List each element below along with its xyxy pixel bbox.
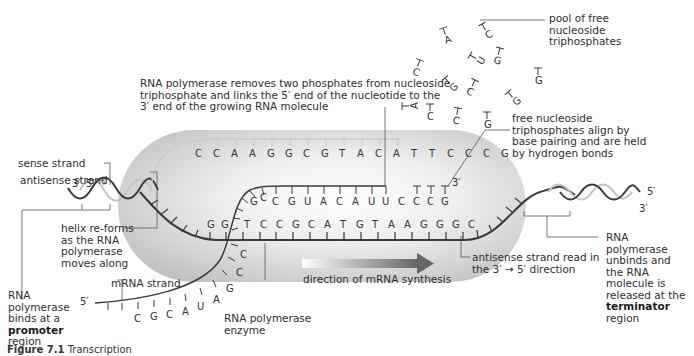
- svg-text:C: C: [452, 114, 461, 126]
- svg-text:A: A: [231, 148, 238, 159]
- free-align-label: free nucleoside triphosphates align by b…: [512, 113, 646, 159]
- svg-text:G: G: [441, 196, 449, 207]
- svg-text:T: T: [338, 148, 346, 159]
- terminator-label: RNA polymerase unbinds and the RNA molec…: [606, 232, 685, 324]
- sense-strand-label: sense strand: [18, 158, 86, 170]
- pool-label: pool of free nucleoside triphosphates: [549, 13, 621, 48]
- right-5prime-label: 5′: [647, 186, 656, 197]
- svg-text:T: T: [410, 148, 418, 159]
- free-nucleotide: G: [505, 89, 523, 108]
- helix-reforms-label: helix re-forms as the RNA polymerase mov…: [61, 223, 134, 269]
- svg-text:A: A: [404, 219, 411, 230]
- svg-text:G: G: [226, 283, 234, 294]
- svg-text:C: C: [465, 148, 472, 159]
- svg-text:G: G: [436, 219, 444, 230]
- svg-text:G: G: [207, 219, 215, 230]
- svg-text:C: C: [195, 148, 202, 159]
- rna-3prime-label: 3′: [452, 177, 461, 188]
- svg-text:C: C: [236, 267, 243, 278]
- svg-text:G: G: [535, 75, 543, 86]
- figure-caption: Figure 7.1 Transcription: [7, 344, 132, 355]
- mrna-5prime-label: 5′: [80, 296, 89, 307]
- svg-text:G: G: [150, 311, 158, 322]
- free-nucleotide: C: [464, 78, 479, 98]
- svg-text:U: U: [197, 301, 204, 312]
- svg-text:U: U: [382, 196, 389, 207]
- svg-text:C: C: [240, 249, 247, 260]
- rna-aligning-sequence: C C G: [413, 196, 449, 207]
- svg-text:A: A: [182, 306, 189, 317]
- svg-text:G: G: [250, 196, 258, 207]
- svg-text:C: C: [308, 219, 315, 230]
- svg-text:A: A: [213, 294, 220, 305]
- antisense-read-label: antisense strand read in the 3′ → 5′ dir…: [472, 252, 600, 275]
- svg-text:U: U: [475, 55, 488, 67]
- svg-text:G: G: [420, 219, 428, 230]
- svg-text:C: C: [260, 192, 267, 203]
- svg-text:C: C: [375, 148, 382, 159]
- svg-text:G: G: [356, 219, 364, 230]
- svg-text:G: G: [492, 54, 502, 67]
- svg-text:A: A: [443, 33, 453, 46]
- free-nucleotide: C: [410, 59, 424, 79]
- svg-text:G: G: [292, 219, 300, 230]
- free-nucleotide: C: [479, 22, 495, 42]
- svg-text:G: G: [221, 219, 229, 230]
- svg-text:G: G: [501, 148, 509, 159]
- svg-text:C: C: [272, 196, 279, 207]
- svg-text:C: C: [276, 219, 283, 230]
- svg-text:C: C: [427, 111, 434, 122]
- svg-text:C: C: [468, 219, 475, 230]
- svg-text:C: C: [166, 309, 173, 320]
- svg-text:T: T: [428, 148, 436, 159]
- antisense-strand-label: antisense strand: [20, 175, 108, 187]
- svg-text:T: T: [339, 219, 347, 230]
- svg-text:C: C: [260, 219, 267, 230]
- free-nucleotide: G: [534, 68, 543, 86]
- svg-text:G: G: [285, 148, 293, 159]
- svg-text:C: C: [303, 148, 310, 159]
- svg-text:G: G: [452, 219, 460, 230]
- svg-text:C: C: [134, 313, 141, 324]
- free-nucleotide: G: [491, 47, 504, 67]
- svg-text:A: A: [352, 196, 359, 207]
- svg-text:A: A: [249, 148, 256, 159]
- svg-text:C: C: [427, 196, 434, 207]
- svg-text:T: T: [371, 219, 379, 230]
- svg-text:A: A: [393, 148, 400, 159]
- svg-text:C: C: [465, 85, 476, 98]
- svg-text:U: U: [368, 196, 375, 207]
- transcription-diagram: C C A A G G C G T A C A T T C C C G: [0, 0, 694, 356]
- svg-text:A: A: [388, 219, 395, 230]
- svg-text:A: A: [357, 148, 364, 159]
- svg-text:C: C: [398, 196, 405, 207]
- free-nucleotide: C: [451, 107, 462, 126]
- svg-text:A: A: [324, 219, 331, 230]
- svg-text:T: T: [243, 219, 251, 230]
- svg-text:C: C: [336, 196, 343, 207]
- svg-text:G: G: [267, 148, 275, 159]
- right-3prime-label: 3′: [639, 203, 648, 214]
- svg-text:C: C: [483, 148, 490, 159]
- direction-label: direction of mRNA synthesis: [303, 274, 451, 286]
- svg-text:G: G: [321, 148, 329, 159]
- svg-text:U: U: [304, 196, 311, 207]
- svg-text:C: C: [213, 148, 220, 159]
- mrna-strand-label: mRNA strand: [111, 278, 181, 290]
- svg-text:A: A: [320, 196, 327, 207]
- svg-text:G: G: [288, 196, 296, 207]
- svg-text:C: C: [483, 28, 495, 41]
- svg-text:C: C: [413, 196, 420, 207]
- free-nucleotide: U: [468, 51, 488, 67]
- free-nucleotide: A: [439, 27, 453, 47]
- free-nucleotide: G: [483, 112, 492, 130]
- rna-polymerase-enzyme-label: RNA polymerase enzyme: [224, 313, 311, 336]
- polymerase-removes-label: RNA polymerase removes two phosphates fr…: [140, 78, 450, 113]
- promoter-label: RNA polymerase binds at a promoter regio…: [8, 290, 70, 348]
- svg-text:C: C: [447, 148, 454, 159]
- svg-text:G: G: [484, 119, 492, 130]
